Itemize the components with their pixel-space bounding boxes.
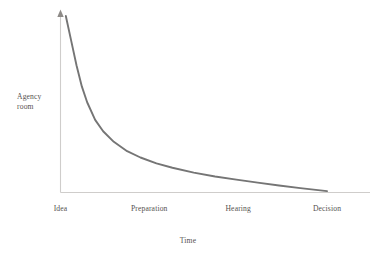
y-axis-arrow-icon [57,10,63,18]
x-axis-label: Time [0,236,376,246]
y-axis-label: Agencyroom [17,92,42,111]
x-tick-label-decision: Decision [267,204,376,213]
chart-figure: Agencyroom Time IdeaPreparationHearingDe… [0,0,376,255]
agency-room-decay-curve [66,16,327,191]
y-axis-label-line-0: Agency [17,92,42,102]
y-axis-label-line-1: room [17,102,42,112]
chart-plot-area [0,0,376,255]
